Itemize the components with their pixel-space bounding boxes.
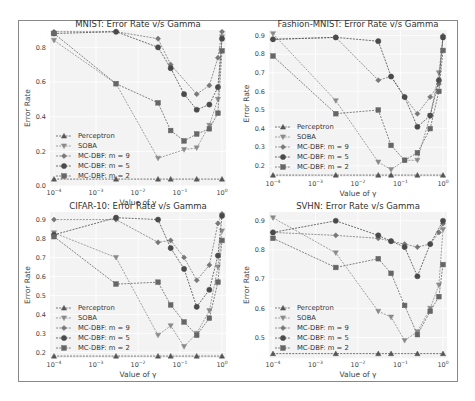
legend-label: SOBA [297,314,316,322]
panel-fashion-mnist: 0.20.30.40.50.60.70.80.910−410−310−210−1… [242,19,449,198]
y-tick-label: 0.5 [255,334,265,342]
y-tick-label: 0.8 [255,50,265,58]
legend-label: Perceptron [78,304,115,312]
y-tick-label: 0.9 [36,216,46,224]
legend-label: Perceptron [297,304,334,312]
data-point-marker [437,89,442,94]
data-point-marker [270,230,275,235]
data-point-marker [207,287,212,292]
legend-label: MC-DBF: m = 2 [78,172,130,180]
y-tick-label: 0.4 [36,113,46,121]
y-tick-label: 0.6 [36,273,46,281]
data-point-marker [402,303,407,308]
data-point-marker [402,158,407,163]
data-point-marker [168,128,173,133]
legend-marker [281,346,286,351]
y-tick-label: 0.5 [36,292,46,300]
figure: 0.00.20.40.60.810−410−310−210−1100MNIST:… [0,0,475,401]
x-tick-label: 10−3 [308,360,323,369]
data-point-marker [182,320,187,325]
data-point-marker [52,234,57,239]
x-tick-label: 100 [437,360,448,369]
data-point-marker [113,29,118,34]
data-point-marker [156,100,161,105]
x-tick-label: 10−1 [393,360,408,369]
x-tick-label: 10−2 [351,179,366,188]
y-tick-label: 0.2 [36,349,46,357]
legend-marker [62,346,67,351]
x-tick-label: 10−1 [173,360,188,369]
data-point-marker [428,113,433,118]
panel-svhn: 0.50.60.70.80.910−410−310−210−1100SVHN: … [242,201,449,379]
x-tick-label: 10−4 [266,179,281,188]
data-point-marker [376,256,381,261]
data-point-marker [216,111,221,116]
y-tick-label: 0.8 [255,246,265,254]
data-point-marker [436,78,441,83]
data-point-marker [113,215,118,220]
data-point-marker [168,303,173,308]
data-point-marker [441,48,446,53]
data-point-marker [376,39,381,44]
legend-label: MC-DBF: m = 5 [297,334,349,342]
data-point-marker [389,143,394,148]
legend-label: MC-DBF: m = 2 [297,163,349,171]
x-tick-label: 100 [216,188,227,197]
x-tick-label: 10−3 [89,188,104,197]
panel-cifar10: 0.20.30.40.50.60.70.80.910−410−310−210−1… [23,201,228,379]
chart-title: CIFAR-10: Error Rate v/s Gamma [69,201,207,211]
data-point-marker [376,233,381,238]
x-tick-label: 10−1 [393,179,408,188]
x-tick-label: 10−2 [351,360,366,369]
chart-title: Fashion-MNIST: Error Rate v/s Gamma [278,19,439,29]
legend-label: MC-DBF: m = 5 [78,334,130,342]
legend-marker [280,335,285,340]
data-point-marker [428,309,433,314]
y-tick-label: 0.4 [255,125,265,133]
panel-mnist: 0.00.20.40.60.810−410−310−210−1100MNIST:… [23,19,228,207]
y-tick-label: 0.3 [255,143,265,151]
data-point-marker [389,271,394,276]
legend-label: MC-DBF: m = 5 [78,162,130,170]
x-tick-label: 10−4 [47,188,62,197]
legend-label: MC-DBF: m = 9 [297,324,349,332]
data-point-marker [194,132,199,137]
legend-label: SOBA [297,133,316,141]
data-point-marker [194,304,199,309]
data-point-marker [440,35,445,40]
y-tick-label: 0.7 [255,69,265,77]
x-tick-label: 10−1 [173,188,188,197]
legend-label: MC-DBF: m = 9 [78,152,130,160]
data-point-marker [415,124,420,129]
data-point-marker [220,238,225,243]
data-point-marker [216,280,221,285]
y-axis-label: Error Rate [242,84,251,122]
legend-marker [280,154,285,159]
data-point-marker [376,108,381,113]
legend-marker [62,174,67,179]
legend-label: MC-DBF: m = 2 [297,344,349,352]
data-point-marker [168,66,173,71]
data-point-marker [333,111,338,116]
y-tick-label: 0.9 [255,217,265,225]
data-point-marker [215,253,220,258]
data-point-marker [182,139,187,144]
data-point-marker [271,54,276,59]
data-point-marker [181,266,186,271]
y-tick-label: 0.2 [36,148,46,156]
y-axis-label: Error Rate [242,266,251,304]
x-tick-label: 10−2 [131,188,146,197]
data-point-marker [168,245,173,250]
data-point-marker [415,150,420,155]
legend-marker [61,335,66,340]
data-point-marker [415,274,420,279]
x-tick-label: 100 [437,179,448,188]
x-tick-label: 10−3 [89,360,104,369]
y-tick-label: 0.7 [36,254,46,262]
x-tick-label: 100 [216,360,227,369]
legend-label: SOBA [78,142,97,150]
chart-title: MNIST: Error Rate v/s Gamma [75,19,201,29]
data-point-marker [155,45,160,50]
data-point-marker [114,81,119,86]
data-point-marker [388,239,393,244]
